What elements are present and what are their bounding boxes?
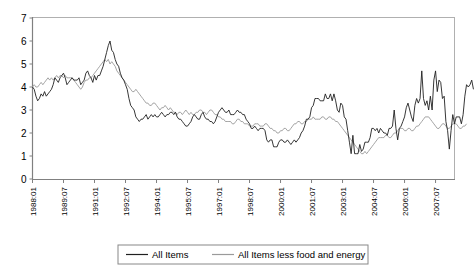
x-tick-label: 2007:07 [432,186,441,215]
chart-container: 01234567 1988:011989:071991:011992:07199… [0,0,474,271]
x-tick-label: 1991:01 [91,186,100,215]
y-tick-label: 6 [21,36,27,47]
y-tick-label: 2 [21,128,27,139]
x-tick-label: 1997:01 [215,186,224,215]
x-tick-label: 1992:07 [122,186,131,215]
series-line [33,59,467,153]
x-tick-label: 1995:07 [184,186,193,215]
y-tick-label: 0 [21,174,27,185]
chart-legend: All ItemsAll Items less food and energy [118,245,368,264]
x-tick-label: 2004:07 [370,186,379,215]
y-tick-label: 3 [21,105,27,116]
series-line [33,41,474,154]
x-tick-label: 1994:01 [153,186,162,215]
y-tick-label: 1 [21,151,27,162]
x-axis-ticks: 1988:011989:071991:011992:071994:011995:… [29,179,441,216]
legend-item-label: All Items [152,249,189,260]
x-tick-label: 2006:01 [401,186,410,215]
series-lines [33,41,474,154]
x-tick-label: 1988:01 [29,186,38,215]
x-tick-label: 1998:07 [246,186,255,215]
x-tick-label: 1989:07 [60,186,69,215]
y-tick-label: 7 [21,13,27,24]
x-tick-label: 2000:01 [277,186,286,215]
y-axis-ticks: 01234567 [21,13,33,185]
legend-item-label: All Items less food and energy [238,249,366,260]
x-tick-label: 2001:07 [308,186,317,215]
line-chart: 01234567 1988:011989:071991:011992:07199… [0,0,474,271]
plot-frame [32,17,455,180]
y-tick-label: 5 [21,59,27,70]
y-tick-label: 4 [21,82,27,93]
x-tick-label: 2003:01 [339,186,348,215]
